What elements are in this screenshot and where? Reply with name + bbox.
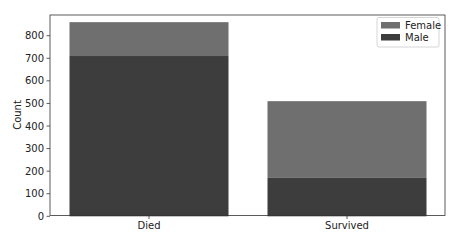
y-tick-label: 600 [25,75,44,86]
legend-swatch-male [381,34,400,41]
legend: FemaleMale [377,18,441,48]
y-tick-label: 800 [25,30,44,41]
bar-survived-female [268,101,427,178]
y-tick-label: 300 [25,143,44,154]
bar-died-female [70,22,229,56]
y-tick-label: 500 [25,98,44,109]
legend-swatch-female [381,22,400,29]
y-tick-label: 200 [25,166,44,177]
legend-label-male: Male [405,32,429,43]
y-axis: 0100200300400500600700800 [25,30,50,222]
y-tick-label: 700 [25,53,44,64]
y-tick-label: 100 [25,188,44,199]
x-tick-label-died: Died [138,220,161,231]
x-tick-label-survived: Survived [325,220,369,231]
bar-died-male [70,56,229,216]
stacked-bar-chart: 0100200300400500600700800 DiedSurvived C… [0,0,460,240]
bar-survived-male [268,178,427,216]
bars-group [70,22,427,216]
legend-label-female: Female [405,20,441,31]
x-axis: DiedSurvived [138,216,369,232]
y-tick-label: 0 [38,211,44,222]
y-tick-label: 400 [25,121,44,132]
y-axis-label: Count [12,100,23,130]
